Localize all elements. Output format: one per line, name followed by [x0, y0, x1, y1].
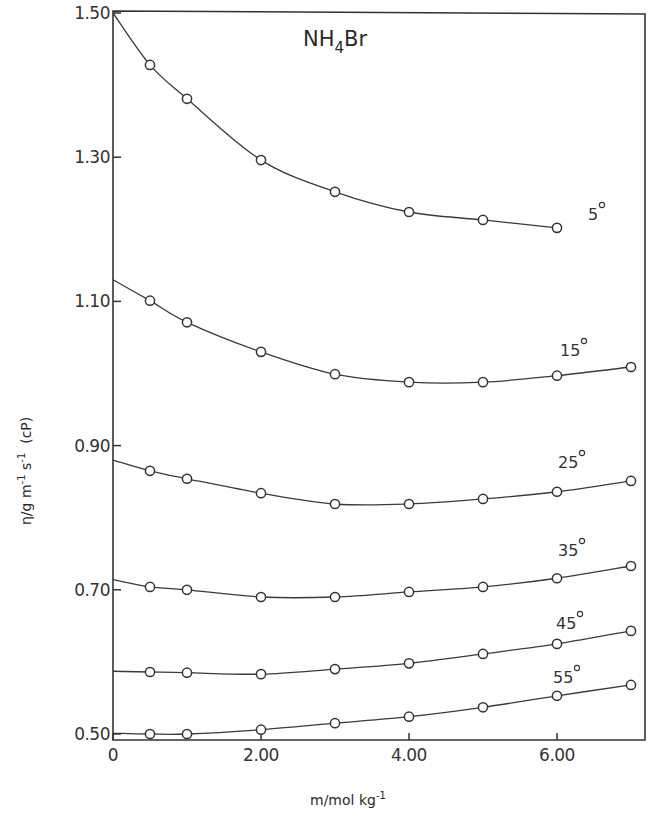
series-label-25deg: 25 [558, 453, 578, 472]
data-point-marker [145, 60, 154, 69]
data-point-marker [256, 489, 265, 498]
data-point-marker [330, 592, 339, 601]
data-point-marker [552, 371, 561, 380]
data-point-marker [330, 719, 339, 728]
data-point-marker [256, 592, 265, 601]
x-tick-label: 4.00 [391, 745, 427, 765]
y-tick-label: 1.50 [74, 3, 110, 23]
y-tick-label: 0.90 [74, 436, 110, 456]
degree-symbol-icon [577, 611, 582, 616]
data-point-marker [478, 649, 487, 658]
data-point-marker [404, 587, 413, 596]
data-point-marker [552, 223, 561, 232]
data-point-marker [626, 476, 635, 485]
degree-symbol-icon [579, 450, 584, 455]
chart-title: NH4Br [303, 27, 367, 57]
data-point-marker [626, 626, 635, 635]
data-point-marker [330, 499, 339, 508]
data-point-marker [256, 347, 265, 356]
degree-symbol-icon [581, 338, 586, 343]
data-point-marker [626, 680, 635, 689]
data-point-marker [182, 668, 191, 677]
x-axis-label: m/mol kg-1 [310, 790, 386, 808]
data-point-marker [478, 378, 487, 387]
y-tick-label: 0.70 [74, 580, 110, 600]
data-point-marker [182, 585, 191, 594]
degree-symbol-icon [599, 202, 604, 207]
data-point-marker [404, 499, 413, 508]
viscosity-chart: 0.500.700.901.101.301.50 02.004.006.00 5… [0, 0, 660, 819]
data-point-marker [145, 296, 154, 305]
data-point-marker [330, 187, 339, 196]
series-label-55deg: 55 [553, 668, 573, 687]
data-point-marker [478, 494, 487, 503]
data-point-marker [145, 466, 154, 475]
series-labels: 51525354555 [553, 202, 605, 687]
data-point-marker [145, 582, 154, 591]
y-axis-label: η/g m-1 s-1 (cP) [16, 417, 34, 525]
data-point-marker [404, 207, 413, 216]
data-point-marker [182, 474, 191, 483]
data-point-marker [552, 639, 561, 648]
data-point-marker [478, 215, 487, 224]
x-tick-label: 6.00 [539, 745, 575, 765]
data-point-marker [182, 318, 191, 327]
x-axis-ticks: 02.004.006.00 [108, 733, 575, 765]
degree-symbol-icon [574, 665, 579, 670]
y-tick-label: 1.10 [74, 291, 110, 311]
data-point-marker [478, 703, 487, 712]
series-label-15deg: 15 [560, 341, 580, 360]
data-point-marker [626, 561, 635, 570]
curve-15deg [113, 280, 631, 383]
series-label-35deg: 35 [558, 541, 578, 560]
x-tick-label: 0 [108, 745, 118, 765]
data-point-marker [145, 667, 154, 676]
series-markers [145, 60, 635, 738]
data-point-marker [256, 725, 265, 734]
data-point-marker [404, 712, 413, 721]
data-point-marker [182, 94, 191, 103]
degree-symbol-icon [579, 538, 584, 543]
y-axis-ticks: 0.500.700.901.101.301.50 [74, 3, 121, 744]
series-label-5deg: 5 [588, 205, 598, 224]
data-point-marker [552, 691, 561, 700]
x-tick-label: 2.00 [243, 745, 279, 765]
data-point-marker [626, 362, 635, 371]
data-point-marker [552, 574, 561, 583]
data-point-marker [478, 582, 487, 591]
data-point-marker [404, 378, 413, 387]
y-tick-label: 1.30 [74, 147, 110, 167]
data-point-marker [182, 729, 191, 738]
data-point-marker [330, 370, 339, 379]
data-point-marker [552, 487, 561, 496]
data-point-marker [330, 665, 339, 674]
data-point-marker [256, 670, 265, 679]
data-point-marker [256, 155, 265, 164]
data-point-marker [145, 729, 154, 738]
data-point-marker [404, 659, 413, 668]
y-tick-label: 0.50 [74, 724, 110, 744]
series-label-45deg: 45 [556, 614, 576, 633]
